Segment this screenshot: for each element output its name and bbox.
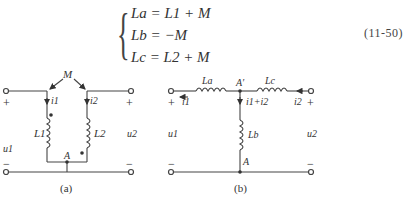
label-i2-a: i2	[90, 95, 98, 106]
label-i1-plus-i2: i1+i2	[246, 96, 268, 107]
label-l1: L1	[33, 127, 46, 139]
plus-right-a: +	[126, 96, 133, 110]
caption-b: (b)	[234, 182, 247, 195]
junction-dot-a-b	[238, 170, 242, 174]
minus-right-a: −	[126, 157, 133, 171]
plus-left-a: +	[3, 96, 10, 110]
label-mutual-m: M	[62, 68, 73, 80]
label-u1-b: u1	[168, 128, 178, 139]
plus-left-b: +	[168, 96, 175, 110]
minus-left-b: −	[168, 157, 175, 171]
label-lb: Lb	[247, 129, 259, 140]
caption-a: (a)	[60, 182, 73, 195]
label-i1-a: i1	[51, 95, 59, 106]
minus-left-a: −	[3, 157, 10, 171]
label-i1-b: i1	[182, 96, 190, 107]
polarity-dot-l2	[80, 151, 84, 155]
label-u1-a: u1	[3, 143, 13, 154]
label-l2: L2	[93, 127, 106, 139]
plus-right-b: +	[307, 96, 314, 110]
label-node-a-b: A	[242, 156, 250, 167]
polarity-dot-l1	[49, 113, 53, 117]
label-i2-b: i2	[294, 96, 302, 107]
minus-right-b: −	[307, 157, 314, 171]
circuit-b	[173, 88, 309, 172]
junction-dot-a-prime	[238, 89, 242, 93]
label-node-a: A	[63, 150, 71, 161]
label-u2-a: u2	[127, 128, 137, 139]
label-la: La	[201, 75, 213, 86]
label-lc: Lc	[264, 75, 276, 86]
label-u2-b: u2	[307, 128, 317, 139]
label-node-a-prime: A′	[235, 77, 245, 88]
